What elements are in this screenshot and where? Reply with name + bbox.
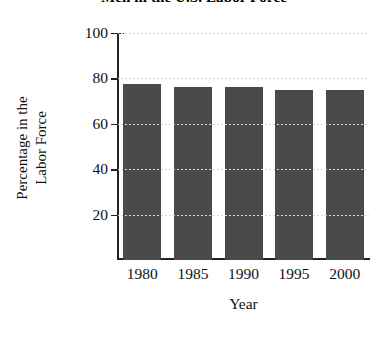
y-axis-tick-label: 100: [85, 25, 108, 41]
y-axis-title-line-1: Percentage in the: [13, 96, 32, 199]
x-axis-title: Year: [117, 295, 370, 313]
gridline: [117, 169, 370, 170]
bar: [275, 90, 313, 260]
y-axis-tick: [111, 124, 118, 125]
y-axis-tick-label: 60: [93, 116, 109, 132]
x-axis-tick-label: 1995: [279, 266, 310, 282]
bar-group: [117, 33, 370, 260]
plot-area: 20406080100: [117, 33, 370, 260]
chart-figure: Men in the U.S. Labor Force Percentage i…: [0, 0, 388, 337]
x-axis-tick-label: 1980: [127, 266, 158, 282]
bar: [123, 84, 161, 260]
bar: [174, 87, 212, 260]
gridline: [117, 78, 370, 79]
bar: [225, 87, 263, 260]
x-axis-tick-label: 2000: [329, 266, 360, 282]
y-axis-tick-label: 80: [93, 71, 109, 87]
y-axis-tick: [111, 169, 118, 170]
y-axis-title-line-2: Labor Force: [32, 96, 51, 199]
bar: [326, 90, 364, 260]
y-axis-tick-label: 40: [93, 161, 109, 177]
y-axis-tick: [111, 33, 118, 34]
gridline: [117, 215, 370, 216]
y-axis-title: Percentage in the Labor Force: [2, 40, 62, 255]
chart-title: Men in the U.S. Labor Force: [0, 0, 388, 6]
y-axis-tick-label: 20: [93, 207, 109, 223]
x-axis-tick-label: 1990: [228, 266, 259, 282]
y-axis-tick: [111, 215, 118, 216]
x-axis-tick-label: 1985: [177, 266, 208, 282]
y-axis-tick: [111, 78, 118, 79]
gridline: [117, 124, 370, 125]
gridline: [117, 33, 370, 34]
